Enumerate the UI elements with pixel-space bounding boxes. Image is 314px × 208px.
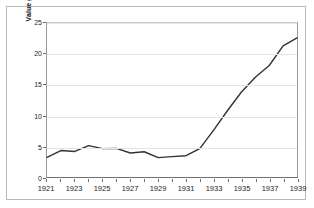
y-tick-mark-0 (43, 178, 46, 179)
x-tick-mark-1938 (284, 179, 285, 182)
x-tick-mark-1929 (158, 179, 159, 182)
gridline-y-20 (47, 54, 297, 55)
x-tick-label-1939: 1939 (284, 184, 312, 194)
x-tick-mark-1939 (298, 179, 299, 182)
x-tick-label-1933: 1933 (200, 184, 228, 194)
line-series-value (47, 23, 297, 177)
gridline-y-5 (47, 148, 297, 149)
x-tick-label-1923: 1923 (60, 184, 88, 194)
y-tick-mark-15 (43, 84, 46, 85)
y-tick-mark-10 (43, 116, 46, 117)
x-tick-mark-1925 (102, 179, 103, 182)
gridline-y-15 (47, 85, 297, 86)
x-tick-mark-1934 (228, 179, 229, 182)
x-tick-mark-1930 (172, 179, 173, 182)
x-tick-mark-1923 (74, 179, 75, 182)
x-tick-mark-1932 (200, 179, 201, 182)
x-tick-mark-1924 (88, 179, 89, 182)
x-tick-mark-1937 (270, 179, 271, 182)
x-tick-mark-1926 (116, 179, 117, 182)
x-axis-tick-labels: 1921192319251927192919311933193519371939 (46, 184, 298, 196)
y-tick-label-0: 0 (28, 175, 42, 182)
y-tick-mark-20 (43, 53, 46, 54)
y-axis-tick-labels: 2520151050 (26, 22, 42, 178)
x-tick-mark-1922 (60, 179, 61, 182)
gridline-y-25 (47, 23, 297, 24)
x-axis-ticks (46, 179, 298, 183)
y-tick-label-10: 10 (28, 112, 42, 119)
x-tick-label-1931: 1931 (172, 184, 200, 194)
y-tick-mark-5 (43, 147, 46, 148)
y-tick-label-25: 25 (28, 19, 42, 26)
plot-area (46, 22, 298, 178)
x-tick-mark-1933 (214, 179, 215, 182)
x-tick-mark-1936 (256, 179, 257, 182)
x-tick-label-1925: 1925 (88, 184, 116, 194)
x-tick-label-1935: 1935 (228, 184, 256, 194)
x-tick-label-1937: 1937 (256, 184, 284, 194)
x-tick-label-1921: 1921 (32, 184, 60, 194)
gridline-y-10 (47, 117, 297, 118)
y-tick-label-5: 5 (28, 143, 42, 150)
y-tick-label-15: 15 (28, 81, 42, 88)
y-tick-label-20: 20 (28, 50, 42, 57)
x-tick-label-1927: 1927 (116, 184, 144, 194)
x-tick-mark-1928 (144, 179, 145, 182)
x-tick-mark-1921 (46, 179, 47, 182)
x-tick-mark-1927 (130, 179, 131, 182)
chart-figure: Value (Cdn $ millions) 2520151050 192119… (0, 0, 314, 208)
x-tick-mark-1931 (186, 179, 187, 182)
x-tick-label-1929: 1929 (144, 184, 172, 194)
x-tick-mark-1935 (242, 179, 243, 182)
y-tick-mark-25 (43, 22, 46, 23)
